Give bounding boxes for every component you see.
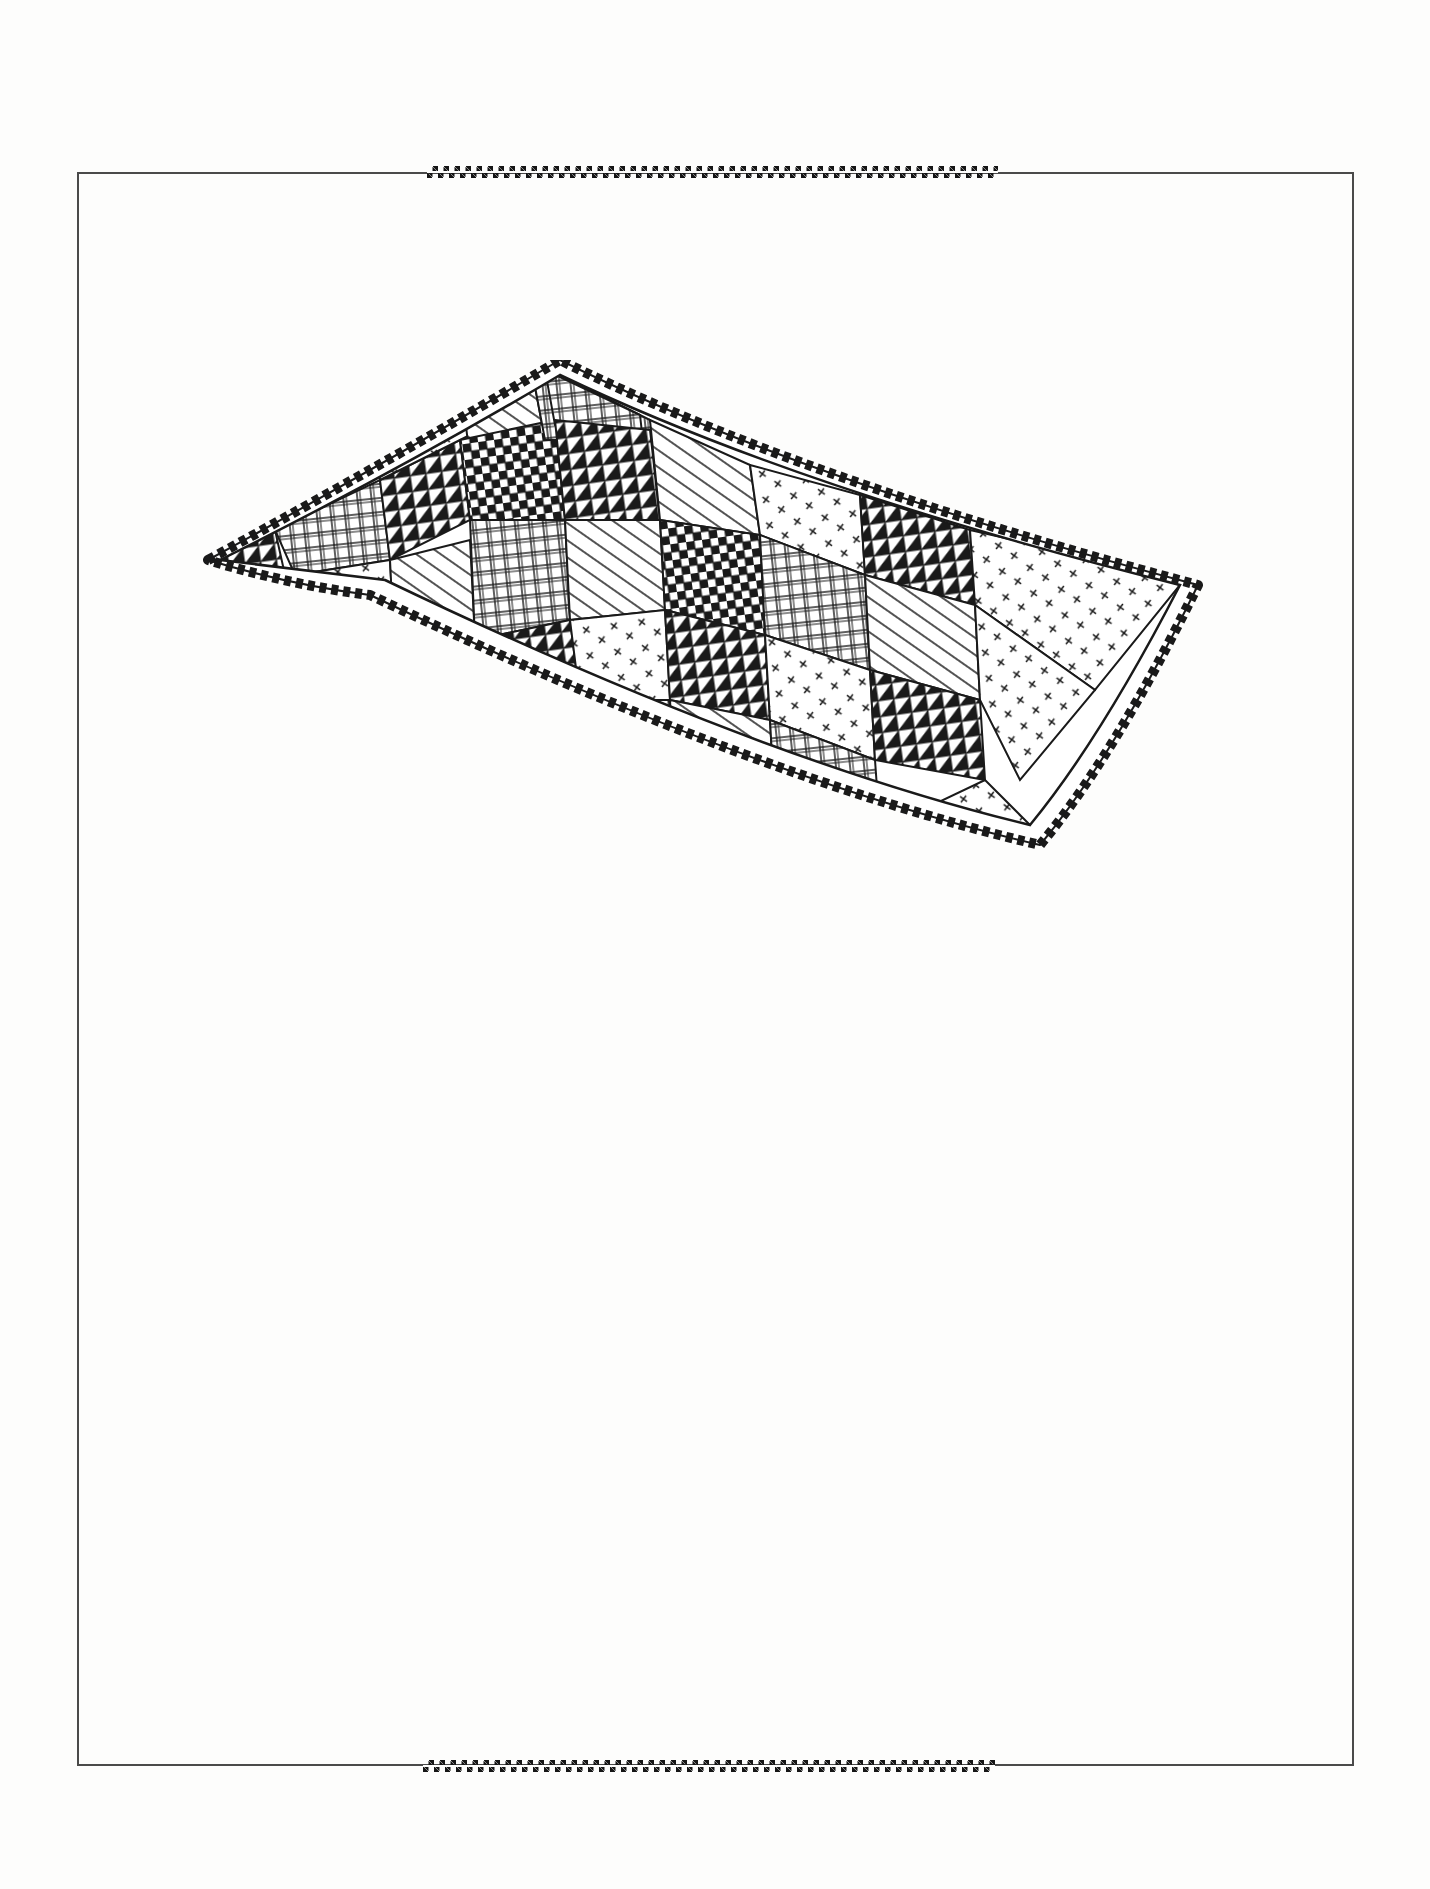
quilt-pillow-illustration <box>200 360 1220 1020</box>
top-checker-ornament <box>427 166 998 178</box>
bottom-checker-ornament <box>423 1760 995 1772</box>
